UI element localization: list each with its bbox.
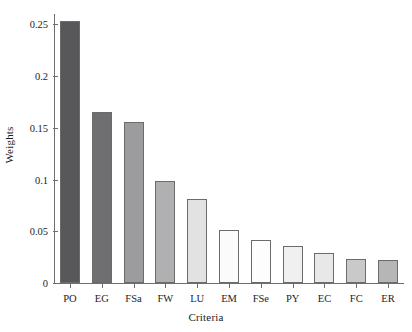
x-tick-mark — [261, 283, 262, 288]
bar-er — [378, 260, 398, 283]
bar-chart: Weights Criteria 00.050.10.150.20.25 POE… — [0, 0, 412, 332]
bar-eg — [92, 112, 112, 283]
bar-fse — [251, 240, 271, 283]
x-tick-mark — [197, 283, 198, 288]
x-tick-mark — [388, 283, 389, 288]
x-tick-label-em: EM — [221, 293, 237, 304]
x-tick-mark — [70, 283, 71, 288]
x-tick-label-fc: FC — [350, 293, 363, 304]
y-tick-mark — [53, 180, 58, 181]
bar-em — [219, 230, 239, 283]
y-tick-mark — [53, 76, 58, 77]
x-tick-label-er: ER — [381, 293, 394, 304]
y-axis-title: Weights — [3, 115, 15, 175]
y-axis-line — [54, 14, 55, 283]
plot-area: 00.050.10.150.20.25 POEGFSaFWLUEMFSePYEC… — [54, 14, 404, 283]
x-tick-mark — [165, 283, 166, 288]
y-tick-mark — [53, 231, 58, 232]
x-tick-label-py: PY — [286, 293, 299, 304]
y-tick-label: 0.05 — [30, 226, 48, 237]
x-tick-mark — [324, 283, 325, 288]
bar-fsa — [124, 122, 144, 283]
y-tick-label: 0.2 — [35, 71, 48, 82]
x-tick-label-fw: FW — [157, 293, 173, 304]
x-tick-label-eg: EG — [95, 293, 109, 304]
y-tick-label: 0.15 — [30, 122, 48, 133]
y-tick-label: 0.25 — [30, 19, 48, 30]
bar-fw — [155, 181, 175, 283]
x-tick-mark — [229, 283, 230, 288]
x-tick-label-fse: FSe — [253, 293, 269, 304]
y-tick-mark — [53, 283, 58, 284]
x-tick-label-po: PO — [63, 293, 76, 304]
bar-po — [60, 21, 80, 283]
bar-ec — [314, 253, 334, 283]
y-tick-label: 0 — [43, 278, 48, 289]
bar-lu — [187, 199, 207, 283]
x-tick-mark — [356, 283, 357, 288]
y-tick-mark — [53, 128, 58, 129]
x-tick-mark — [293, 283, 294, 288]
x-tick-label-lu: LU — [190, 293, 204, 304]
y-tick-mark — [53, 24, 58, 25]
bar-py — [283, 246, 303, 283]
x-axis-title: Criteria — [0, 311, 412, 323]
bar-fc — [346, 259, 366, 283]
x-tick-mark — [134, 283, 135, 288]
x-tick-label-fsa: FSa — [125, 293, 141, 304]
x-tick-mark — [102, 283, 103, 288]
y-tick-label: 0.1 — [35, 174, 48, 185]
x-tick-label-ec: EC — [318, 293, 331, 304]
